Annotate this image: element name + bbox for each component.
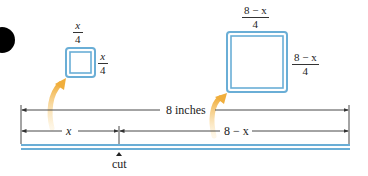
cut-label: cut xyxy=(109,158,130,170)
diagram-canvas xyxy=(0,0,368,176)
left-segment-label: x xyxy=(63,125,74,137)
small-square-side-label: x 4 xyxy=(98,51,108,76)
total-length-label: 8 inches xyxy=(163,104,209,116)
cut-marker-icon xyxy=(116,152,122,156)
small-square xyxy=(66,48,95,77)
bend-arrow-small xyxy=(50,78,66,128)
bullet-icon xyxy=(0,27,15,53)
small-square-top-label: x 4 xyxy=(73,20,83,45)
large-square xyxy=(227,32,287,92)
wire xyxy=(21,145,350,149)
large-square-top-label: 8 − x 4 xyxy=(242,5,269,30)
large-square-side-label: 8 − x 4 xyxy=(292,52,319,77)
right-segment-label: 8 − x xyxy=(221,125,252,137)
